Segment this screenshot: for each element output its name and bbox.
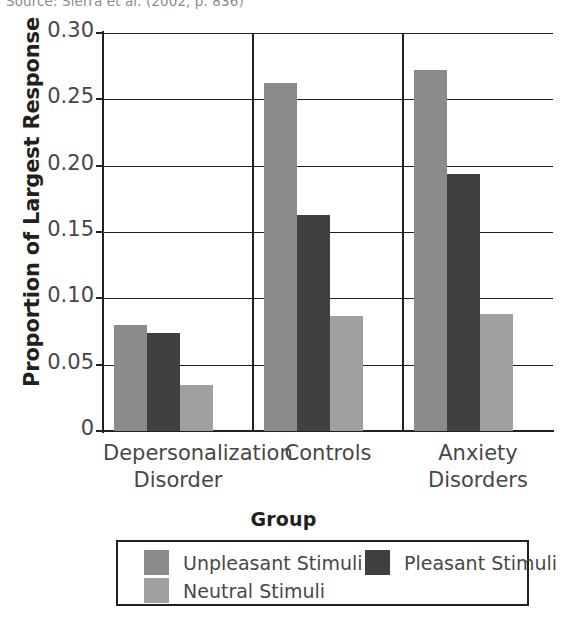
legend-item-pleasant-stimuli[interactable]: Pleasant Stimuli <box>365 550 557 575</box>
y-axis-tick-label: 0.30 <box>0 18 94 42</box>
legend-swatch-icon <box>144 550 169 575</box>
gridline <box>103 33 553 34</box>
y-axis-tick-label: 0.20 <box>0 151 94 175</box>
group-separator <box>402 33 404 431</box>
y-axis-tick-label: 0 <box>0 416 94 440</box>
bar <box>414 70 447 431</box>
legend-label: Pleasant Stimuli <box>404 552 557 574</box>
y-axis-title: Proportion of Largest Response <box>20 2 44 402</box>
bar <box>447 174 480 431</box>
y-axis-tick-label: 0.25 <box>0 84 94 108</box>
y-axis-tick-label: 0.10 <box>0 283 94 307</box>
legend-item-neutral-stimuli[interactable]: Neutral Stimuli <box>144 578 325 603</box>
y-axis-tick-label: 0.15 <box>0 217 94 241</box>
legend-label: Neutral Stimuli <box>183 580 325 602</box>
x-axis-category-label: DepersonalizationDisorder <box>103 440 253 494</box>
category-label-line: Anxiety <box>438 441 518 465</box>
y-axis-tick-mark <box>96 32 104 34</box>
bar <box>264 83 297 431</box>
x-axis-category-label: AnxietyDisorders <box>403 440 553 494</box>
y-axis-tick-mark <box>96 364 104 366</box>
bar <box>480 314 513 431</box>
y-axis-tick-mark <box>96 98 104 100</box>
bar <box>147 333 180 431</box>
bar <box>180 385 213 431</box>
x-axis-category-label: Controls <box>253 440 403 467</box>
plot-area <box>103 33 553 431</box>
legend-label: Unpleasant Stimuli <box>183 552 363 574</box>
y-axis-tick-label: 0.05 <box>0 350 94 374</box>
y-axis-tick-mark <box>96 297 104 299</box>
legend-item-unpleasant-stimuli[interactable]: Unpleasant Stimuli <box>144 550 363 575</box>
category-label-line: Disorders <box>403 467 553 494</box>
group-separator <box>252 33 254 431</box>
bar <box>114 325 147 431</box>
bar <box>330 316 363 431</box>
y-axis-tick-mark <box>96 165 104 167</box>
y-axis-tick-mark <box>96 430 104 432</box>
category-label-line: Controls <box>285 441 372 465</box>
legend-swatch-icon <box>365 550 390 575</box>
bar <box>297 215 330 431</box>
bar-chart-figure: Source: Sierra et al. (2002, p. 836) Pro… <box>0 0 567 617</box>
x-axis-title: Group <box>0 508 567 530</box>
legend-swatch-icon <box>144 578 169 603</box>
y-axis-tick-mark <box>96 231 104 233</box>
category-label-line: Disorder <box>103 467 253 494</box>
legend-box: Unpleasant Stimuli Pleasant Stimuli Neut… <box>116 540 529 606</box>
gridline <box>103 99 553 100</box>
gridline <box>103 166 553 167</box>
